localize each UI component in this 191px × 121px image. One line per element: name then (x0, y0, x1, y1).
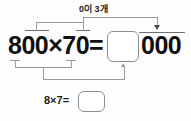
top-bracket-rail (36, 22, 84, 23)
main-expression: 800×70= (8, 33, 103, 58)
bottom-bracket-drop (43, 67, 44, 79)
arrow-up-icon (121, 63, 125, 67)
product-answer-box[interactable] (107, 31, 139, 62)
tail-zeros: 000 (141, 33, 181, 58)
top-bracket-rail-to-arrow (83, 17, 158, 18)
top-bracket-riser (83, 17, 84, 23)
zeros-count-label: 0이 3개 (79, 2, 108, 15)
top-bracket-stem-right (83, 22, 84, 31)
arrow-down-icon (154, 25, 160, 30)
bottom-bracket-stem-left (15, 60, 16, 67)
bottom-bracket-stem-right (71, 60, 72, 67)
bottom-bracket-run (43, 79, 124, 80)
sub-expression: 8×7= (44, 95, 69, 106)
sub-answer-box[interactable] (78, 91, 105, 112)
bottom-bracket-riser (124, 66, 125, 80)
diagram-canvas: 0이 3개 800×70= 000 8×7= (0, 0, 191, 121)
top-bracket-stem-left (36, 22, 37, 31)
